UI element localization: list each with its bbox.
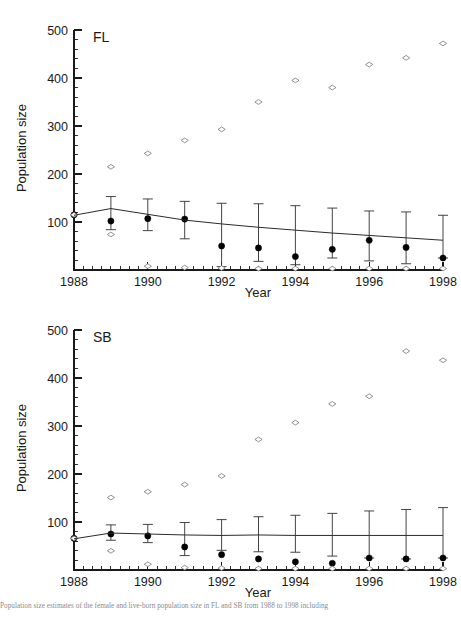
data-point-estimate xyxy=(440,555,446,561)
data-point-bound xyxy=(255,100,262,105)
data-point-estimate xyxy=(366,237,372,243)
panel-label-sb: SB xyxy=(93,329,112,345)
panel-label-fl: FL xyxy=(93,29,110,45)
error-bar xyxy=(290,515,300,552)
data-point-bound xyxy=(144,151,151,156)
x-axis-tick-label: 1994 xyxy=(281,275,309,289)
y-axis-tick-label: 400 xyxy=(47,372,68,386)
chart-panel-sb: 100200300400500198819901992199419961998 … xyxy=(0,300,461,600)
data-point-estimate xyxy=(292,253,298,259)
chart-svg-sb: 100200300400500198819901992199419961998 … xyxy=(0,300,461,600)
data-point-bound xyxy=(366,62,373,67)
data-point-bound xyxy=(366,394,373,399)
data-point-bound xyxy=(292,420,299,425)
data-point-bound xyxy=(439,358,446,363)
data-point-estimate xyxy=(108,218,114,224)
y-axis-title-fl: Population size xyxy=(14,104,29,192)
x-axis-title-sb: Year xyxy=(245,585,272,600)
data-point-estimate xyxy=(255,245,261,251)
plot-area-fl: 100200300400500198819901992199419961998 xyxy=(47,24,457,290)
data-point-bound xyxy=(329,85,336,90)
data-point-bound xyxy=(181,482,188,487)
error-bar xyxy=(254,517,264,552)
error-bar xyxy=(217,203,227,266)
data-point-estimate xyxy=(366,555,372,561)
y-axis-tick-label: 200 xyxy=(47,468,68,482)
data-point-bound xyxy=(144,489,151,494)
y-axis-tick-label: 300 xyxy=(47,120,68,134)
error-bar xyxy=(401,510,411,559)
data-point-bound xyxy=(329,402,336,407)
data-point-estimate xyxy=(108,531,114,537)
x-axis-tick-label: 1998 xyxy=(429,275,457,289)
data-point-estimate xyxy=(403,556,409,562)
data-point-estimate xyxy=(403,244,409,250)
x-axis-tick-label: 1992 xyxy=(208,275,236,289)
data-point-estimate xyxy=(255,556,261,562)
figure-container: 100200300400500198819901992199419961998 … xyxy=(0,0,461,618)
data-point-bound xyxy=(181,138,188,143)
x-axis-tick-label: 1996 xyxy=(355,275,383,289)
data-point-bound xyxy=(255,437,262,442)
x-axis-tick-label: 1992 xyxy=(208,575,236,589)
data-point-estimate xyxy=(440,255,446,261)
error-bar xyxy=(438,215,448,258)
x-axis-tick-label: 1998 xyxy=(429,575,457,589)
plot-area-sb: 100200300400500198819901992199419961998 xyxy=(47,324,457,590)
data-point-bound xyxy=(439,41,446,46)
data-point-bound xyxy=(144,264,151,269)
chart-svg-fl: 100200300400500198819901992199419961998 … xyxy=(0,0,461,300)
data-point-bound xyxy=(181,565,188,570)
data-point-bound xyxy=(144,562,151,567)
data-point-estimate xyxy=(145,216,151,222)
data-point-bound xyxy=(403,349,410,354)
y-axis-tick-label: 400 xyxy=(47,72,68,86)
data-point-estimate xyxy=(329,560,335,566)
y-axis-tick-label: 500 xyxy=(47,24,68,38)
error-bar xyxy=(364,511,374,558)
x-axis-tick-label: 1994 xyxy=(281,575,309,589)
error-bar xyxy=(180,522,190,555)
y-axis-tick-label: 200 xyxy=(47,168,68,182)
x-axis-tick-label: 1990 xyxy=(134,275,162,289)
data-point-estimate xyxy=(219,243,225,249)
data-point-estimate xyxy=(219,552,225,558)
data-point-estimate xyxy=(292,559,298,565)
figure-caption: Population size estimates of the female … xyxy=(0,602,461,611)
x-axis-tick-label: 1988 xyxy=(60,575,88,589)
x-axis-title-fl: Year xyxy=(245,285,272,300)
data-point-bound xyxy=(218,127,225,132)
data-point-bound xyxy=(107,548,114,553)
x-axis-tick-label: 1996 xyxy=(355,575,383,589)
x-axis-tick-label: 1988 xyxy=(60,275,88,289)
data-point-bound xyxy=(292,78,299,83)
data-point-bound xyxy=(403,55,410,60)
y-axis-tick-label: 500 xyxy=(47,324,68,338)
error-bar xyxy=(327,513,337,556)
data-point-bound xyxy=(107,164,114,169)
error-bar xyxy=(254,204,264,262)
error-bar xyxy=(106,197,116,230)
data-point-bound xyxy=(107,495,114,500)
y-axis-tick-label: 100 xyxy=(47,516,68,530)
data-point-bound xyxy=(107,232,114,237)
y-axis-tick-label: 100 xyxy=(47,216,68,230)
y-axis-tick-label: 300 xyxy=(47,420,68,434)
data-point-bound xyxy=(181,265,188,270)
data-point-estimate xyxy=(329,246,335,252)
error-bar xyxy=(438,508,448,558)
x-axis-tick-label: 1990 xyxy=(134,575,162,589)
y-axis-title-sb: Population size xyxy=(14,404,29,492)
data-point-estimate xyxy=(182,544,188,550)
data-point-estimate xyxy=(182,216,188,222)
data-point-bound xyxy=(218,474,225,479)
chart-panel-fl: 100200300400500198819901992199419961998 … xyxy=(0,0,461,300)
